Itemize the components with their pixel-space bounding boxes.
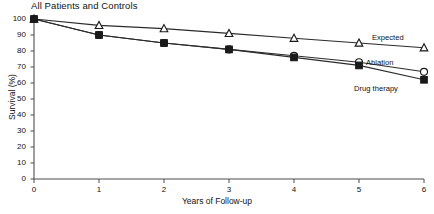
x-tick-label: 2 [156,185,172,194]
x-tick-label: 0 [26,185,42,194]
marker-circle-open [421,68,428,75]
axes-group [31,17,425,183]
marker-square-solid [96,32,103,39]
y-tick-label: 70 [4,62,26,71]
x-tick-label: 1 [91,185,107,194]
marker-square-solid [161,40,168,47]
marker-square-solid [226,46,233,53]
x-tick-label: 5 [351,185,367,194]
y-tick-label: 50 [4,94,26,103]
survival-chart-figure: All Patients and Controls Survival (%) Y… [0,0,434,214]
plot-area [0,0,434,214]
y-tick-label: 80 [4,46,26,55]
series-label-expected: Expected [372,33,404,42]
y-tick-label: 30 [4,126,26,135]
y-tick-label: 60 [4,78,26,87]
marker-square-solid [31,16,38,23]
series-label-ablation: Ablation [366,58,393,67]
y-tick-label: 100 [4,14,26,23]
marker-square-solid [421,77,428,84]
series-label-drug-therapy: Drug therapy [354,84,398,93]
series-group [30,15,428,83]
y-tick-label: 10 [4,158,26,167]
x-tick-label: 4 [286,185,302,194]
chart-title: All Patients and Controls [31,0,138,11]
series-drug-therapy [31,16,428,83]
y-tick-label: 20 [4,142,26,151]
y-tick-label: 0 [4,174,26,183]
x-axis-label: Years of Follow-up [0,196,434,206]
x-tick-label: 3 [221,185,237,194]
marker-square-solid [291,54,298,61]
y-tick-label: 90 [4,30,26,39]
y-tick-label: 40 [4,110,26,119]
marker-square-solid [356,62,363,69]
x-tick-label: 6 [416,185,432,194]
